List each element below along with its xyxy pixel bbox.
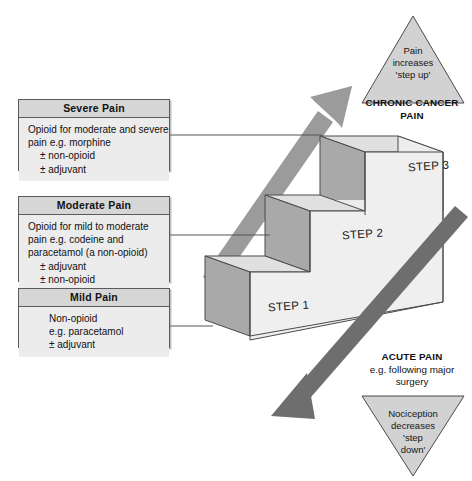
moderate-line-2: pain e.g. codeine and bbox=[28, 233, 169, 246]
acute-caption-title: ACUTE PAIN bbox=[352, 351, 472, 364]
nociception-decreases-text: Nociception decreases 'step down' bbox=[379, 408, 447, 456]
moderate-adjunct-1: ± adjuvant bbox=[28, 260, 169, 273]
severe-adjunct-1: ± non-opioid bbox=[28, 149, 169, 162]
nociception-line-4: down' bbox=[379, 444, 447, 456]
pain-increases-line-2: increases bbox=[382, 57, 444, 69]
pain-increases-line-1: Pain bbox=[382, 45, 444, 57]
mild-line-3: ± adjuvant bbox=[19, 338, 169, 351]
pain-box-moderate: Moderate Pain Opioid for mild to moderat… bbox=[18, 196, 170, 282]
severe-line-2: pain e.g. morphine bbox=[28, 136, 169, 149]
acute-caption-line-1: e.g. following major bbox=[352, 364, 472, 377]
pain-box-severe-header: Severe Pain bbox=[19, 100, 169, 118]
diagram-canvas: Severe Pain Opioid for moderate and seve… bbox=[0, 0, 472, 481]
moderate-adjunct-2: ± non-opioid bbox=[28, 273, 169, 286]
severe-line-1: Opioid for moderate and severe bbox=[28, 123, 169, 136]
pain-box-severe-body: Opioid for moderate and severe pain e.g.… bbox=[19, 118, 169, 181]
pain-box-mild-body: Non-opioid e.g. paracetamol ± adjuvant bbox=[19, 307, 169, 357]
mild-line-1: Non-opioid bbox=[19, 312, 169, 325]
moderate-line-1: Opioid for mild to moderate bbox=[28, 220, 169, 233]
pain-increases-text: Pain increases 'step up' bbox=[382, 45, 444, 81]
chronic-caption-line-2: PAIN bbox=[352, 110, 472, 123]
acute-caption-line-2: surgery bbox=[352, 376, 472, 389]
chronic-caption-line-1: CHRONIC CANCER bbox=[352, 97, 472, 110]
mild-line-2: e.g. paracetamol bbox=[19, 325, 169, 338]
chronic-cancer-pain-caption: CHRONIC CANCER PAIN bbox=[352, 97, 472, 122]
pain-box-moderate-body: Opioid for mild to moderate pain e.g. co… bbox=[19, 215, 169, 291]
pain-box-mild: Mild Pain Non-opioid e.g. paracetamol ± … bbox=[18, 288, 170, 348]
nociception-line-2: decreases bbox=[379, 420, 447, 432]
nociception-line-1: Nociception bbox=[379, 408, 447, 420]
pain-box-mild-header: Mild Pain bbox=[19, 289, 169, 307]
nociception-line-3: 'step bbox=[379, 432, 447, 444]
moderate-line-3: paracetamol (a non-opioid) bbox=[28, 246, 169, 259]
pain-box-moderate-header: Moderate Pain bbox=[19, 197, 169, 215]
pain-box-severe: Severe Pain Opioid for moderate and seve… bbox=[18, 99, 170, 171]
pain-increases-line-3: 'step up' bbox=[382, 69, 444, 81]
acute-pain-caption: ACUTE PAIN e.g. following major surgery bbox=[352, 351, 472, 389]
severe-adjunct-2: ± adjuvant bbox=[28, 163, 169, 176]
